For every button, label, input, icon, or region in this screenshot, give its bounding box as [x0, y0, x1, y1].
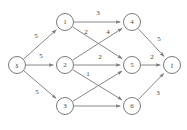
node-label-6: 6: [130, 102, 134, 110]
edge-weight-5-t: 2: [150, 53, 154, 61]
node-6[interactable]: 6: [124, 98, 141, 115]
edge-weight-4-t: 5: [157, 35, 161, 43]
node-label-1: 1: [63, 18, 67, 26]
node-label-4: 4: [130, 18, 134, 26]
edge-3-to-5: [73, 71, 122, 101]
network-diagram-canvas: 55532421523 s123456t: [0, 0, 187, 130]
edge-weight-s-1: 5: [34, 32, 38, 40]
edge-s-to-3: [24, 71, 56, 98]
node-3[interactable]: 3: [57, 98, 74, 115]
edge-weight-3-5: 1: [86, 70, 90, 78]
node-4[interactable]: 4: [124, 14, 141, 31]
node-label-3: 3: [63, 102, 67, 110]
edge-2-to-6: [73, 70, 122, 100]
node-2[interactable]: 2: [57, 57, 74, 74]
edge-weight-1-4: 3: [96, 9, 100, 17]
node-5[interactable]: 5: [124, 57, 141, 74]
edge-weight-2-5: 2: [98, 53, 102, 61]
node-1[interactable]: 1: [57, 14, 74, 31]
edge-6-to-t: [138, 73, 163, 99]
node-label-2: 2: [63, 61, 67, 69]
edge-weight-1-5: 2: [84, 28, 88, 36]
node-label-s: s: [16, 61, 19, 70]
network-graph: 55532421523 s123456t: [0, 0, 187, 130]
edges-layer: [24, 22, 164, 106]
nodes-layer: s123456t: [9, 14, 181, 115]
node-s[interactable]: s: [9, 57, 26, 74]
edge-weight-2-4: 4: [106, 28, 110, 36]
node-label-5: 5: [130, 61, 134, 69]
edge-weight-6-t: 3: [156, 89, 160, 97]
edge-weight-s-3: 5: [35, 88, 39, 96]
edge-weight-s-2: 5: [39, 52, 43, 60]
node-t[interactable]: t: [164, 57, 181, 74]
